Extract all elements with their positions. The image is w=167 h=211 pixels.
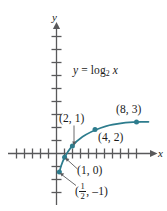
- function-equation-label: y = log2 x: [73, 65, 118, 78]
- point-label-1-0: (1, 0): [77, 165, 103, 177]
- point-label-4-2: (4, 2): [98, 132, 124, 144]
- y-axis-label: y: [52, 12, 57, 23]
- point-label-8-3: (8, 3): [116, 104, 142, 116]
- point-label-2-1: (2, 1): [59, 113, 85, 125]
- equation-argument: x: [110, 64, 118, 76]
- log-function-graph-figure: y x y = log2 x (8, 3) (4, 2) (2, 1) (1, …: [0, 0, 167, 211]
- point-label-half-neg1: (12, –1): [75, 182, 108, 201]
- equation-equals-log: = log: [78, 64, 106, 76]
- one-half-fraction: 12: [79, 182, 85, 201]
- paren-open: (: [75, 185, 79, 197]
- fraction-denominator: 2: [79, 191, 85, 201]
- x-axis-label: x: [158, 148, 163, 159]
- point-8-3: [134, 119, 139, 124]
- fraction-numerator: 1: [79, 182, 85, 191]
- label-remainder: , –1): [86, 185, 108, 197]
- y-axis-arrowhead: [53, 22, 60, 29]
- point-4-2: [93, 127, 98, 132]
- leader-half-neg1: [62, 175, 76, 186]
- leader-1-0: [67, 160, 78, 170]
- x-axis-arrowhead: [150, 150, 158, 157]
